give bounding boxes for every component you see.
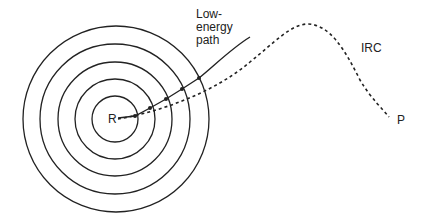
marker-dot [133, 114, 137, 118]
marker-dot [164, 97, 168, 101]
marker-dot [180, 87, 184, 91]
low-energy-path-label-line3: path [196, 33, 219, 47]
reaction-path-diagram: R P IRC Low- energy path [0, 0, 424, 221]
irc-label: IRC [361, 41, 382, 55]
product-label: P [397, 113, 405, 127]
reactant-label: R [108, 112, 117, 126]
low-energy-path-label-line2: energy [196, 20, 233, 34]
marker-dot [148, 106, 152, 110]
marker-dot [197, 76, 201, 80]
low-energy-path-label-line1: Low- [196, 7, 222, 21]
irc-path [118, 24, 389, 119]
